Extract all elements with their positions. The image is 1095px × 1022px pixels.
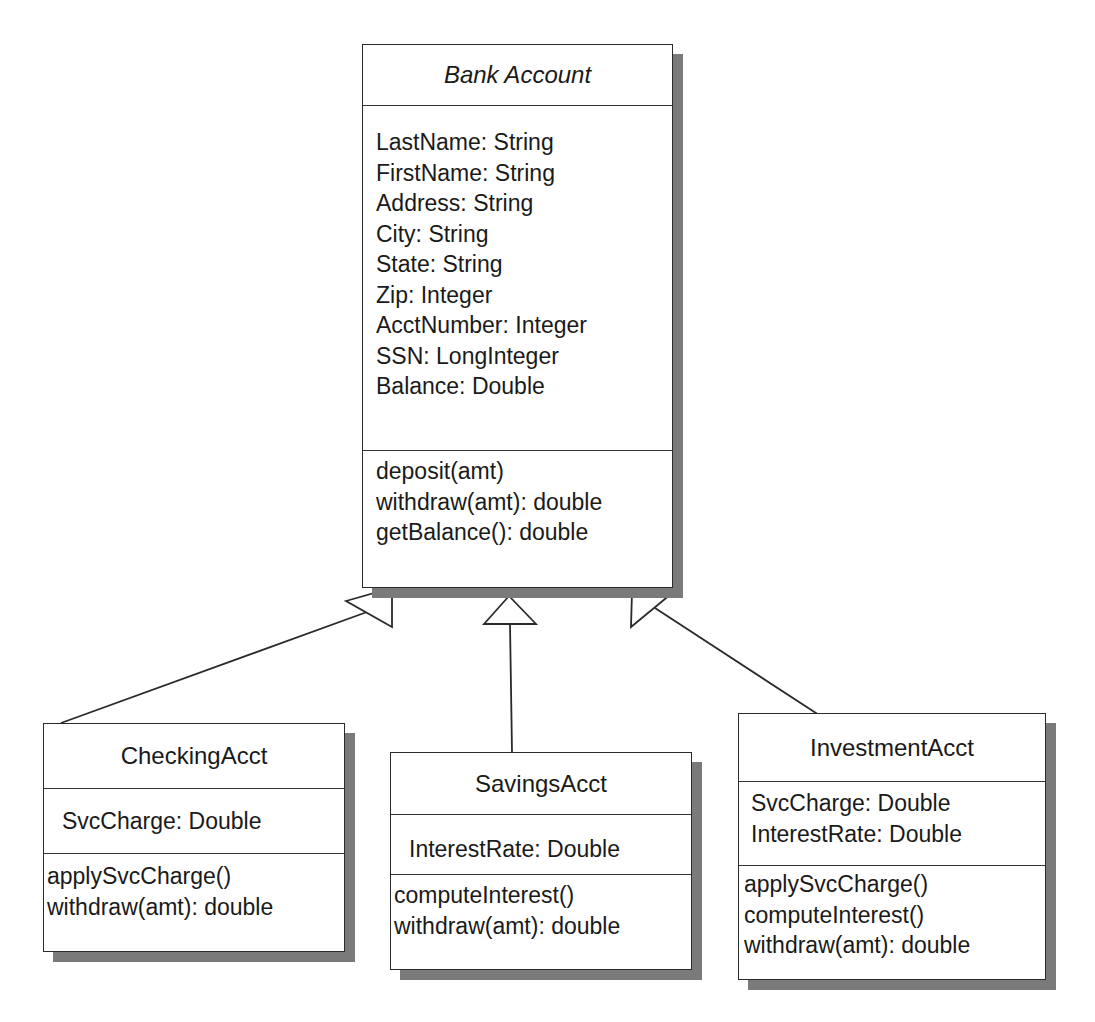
divider	[739, 865, 1045, 866]
method: applySvcCharge()	[744, 869, 1045, 900]
class-name: InvestmentAcct	[739, 714, 1045, 781]
divider	[363, 105, 672, 106]
investment-generalization-arrow-icon	[631, 592, 671, 627]
class-investment-acct[interactable]: InvestmentAcct SvcCharge: Double Interes…	[738, 713, 1046, 980]
method-list: computeInterest() withdraw(amt): double	[394, 880, 691, 941]
attribute: SvcCharge: Double	[62, 806, 344, 837]
method-list: applySvcCharge() withdraw(amt): double	[47, 861, 344, 922]
divider	[391, 874, 691, 875]
attribute: InterestRate: Double	[409, 834, 691, 865]
checking-generalization-arrow-icon	[346, 588, 392, 627]
savings-inheritance-line	[510, 624, 512, 752]
method-list: applySvcCharge() computeInterest() withd…	[744, 869, 1045, 961]
class-bank-account[interactable]: Bank Account LastName: String FirstName:…	[362, 44, 673, 588]
attribute: AcctNumber: Integer	[376, 310, 672, 341]
attribute: SvcCharge: Double	[751, 788, 1045, 819]
attribute-list: InterestRate: Double	[409, 834, 691, 865]
divider	[44, 853, 344, 854]
method: withdraw(amt): double	[744, 930, 1045, 961]
attribute: Address: String	[376, 188, 672, 219]
attribute: InterestRate: Double	[751, 819, 1045, 850]
checking-inheritance-line	[61, 612, 367, 723]
attribute: City: String	[376, 219, 672, 250]
class-name: CheckingAcct	[44, 724, 344, 788]
method-list: deposit(amt) withdraw(amt): double getBa…	[376, 456, 672, 548]
divider	[739, 781, 1045, 782]
attribute-list: SvcCharge: Double	[62, 806, 344, 837]
class-checking-acct[interactable]: CheckingAcct SvcCharge: Double applySvcC…	[43, 723, 345, 952]
class-name: Bank Account	[363, 45, 672, 105]
attribute: LastName: String	[376, 127, 672, 158]
attribute: SSN: LongInteger	[376, 341, 672, 372]
attribute: Zip: Integer	[376, 280, 672, 311]
divider	[44, 788, 344, 789]
method: getBalance(): double	[376, 517, 672, 548]
method: computeInterest()	[744, 900, 1045, 931]
method: withdraw(amt): double	[47, 892, 344, 923]
method: withdraw(amt): double	[394, 911, 691, 942]
investment-inheritance-line	[655, 608, 819, 715]
attribute-list: SvcCharge: Double InterestRate: Double	[751, 788, 1045, 849]
attribute: State: String	[376, 249, 672, 280]
savings-generalization-arrow-icon	[484, 596, 536, 624]
divider	[363, 450, 672, 451]
method: applySvcCharge()	[47, 861, 344, 892]
divider	[391, 814, 691, 815]
attribute: Balance: Double	[376, 371, 672, 402]
method: withdraw(amt): double	[376, 487, 672, 518]
class-name: SavingsAcct	[391, 753, 691, 814]
attribute-list: LastName: String FirstName: String Addre…	[376, 127, 672, 402]
method: deposit(amt)	[376, 456, 672, 487]
method: computeInterest()	[394, 880, 691, 911]
class-savings-acct[interactable]: SavingsAcct InterestRate: Double compute…	[390, 752, 692, 970]
attribute: FirstName: String	[376, 158, 672, 189]
